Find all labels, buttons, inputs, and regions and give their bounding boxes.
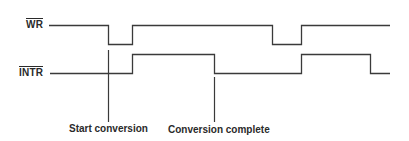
timing-diagram: WR INTR Start conversion Conversion comp…	[0, 0, 409, 141]
conversion-complete-label: Conversion complete	[168, 125, 270, 135]
intr-waveform	[50, 55, 390, 74]
wr-waveform	[49, 26, 390, 45]
intr-signal-label: INTR	[19, 66, 43, 78]
wr-signal-label: WR	[26, 18, 43, 30]
timing-waveforms	[0, 0, 409, 141]
start-conversion-label: Start conversion	[69, 124, 148, 134]
